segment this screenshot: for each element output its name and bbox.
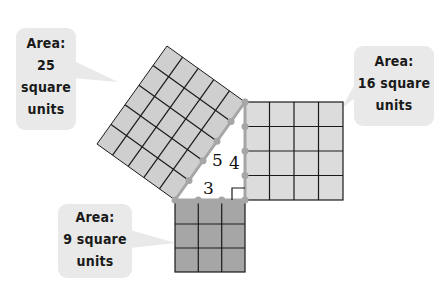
area-16-line3: units — [354, 94, 434, 116]
area-9-callout: Area: 9 square units — [58, 204, 132, 278]
area-9-line3: units — [58, 250, 132, 272]
area-25-line2: 25 — [16, 54, 76, 76]
area-25-line4: units — [16, 98, 76, 120]
area-9-line2: 9 square — [58, 228, 132, 250]
hypotenuse-label: 5 — [212, 150, 223, 170]
vertical-leg-square — [245, 102, 343, 200]
area-25-callout: Area: 25 square units — [16, 28, 76, 130]
horizontal-leg-square — [175, 200, 245, 272]
vertical-leg-label: 4 — [229, 153, 240, 173]
callout-9-pointer — [130, 230, 176, 248]
area-16-line1: Area: — [354, 50, 434, 72]
area-16-callout: Area: 16 square units — [354, 46, 434, 126]
area-9-line1: Area: — [58, 206, 132, 228]
area-25-line1: Area: — [16, 32, 76, 54]
callout-25-pointer — [72, 60, 118, 82]
area-16-line2: 16 square — [354, 72, 434, 94]
horizontal-leg-label: 3 — [203, 178, 214, 198]
area-25-line3: square — [16, 76, 76, 98]
